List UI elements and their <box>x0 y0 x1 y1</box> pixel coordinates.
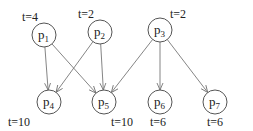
time-label: t=4 <box>22 10 38 24</box>
time-label: t=6 <box>207 115 223 129</box>
time-label: t=6 <box>150 115 166 129</box>
time-label: t=2 <box>78 7 94 21</box>
time-label: t=10 <box>111 115 133 129</box>
edge-p1-p5 <box>52 44 96 93</box>
node-p1: p1t=4 <box>22 10 56 47</box>
edge-p3-p5 <box>111 39 152 92</box>
time-label: t=2 <box>170 7 186 21</box>
edge-p3-p7 <box>167 40 207 93</box>
time-label: t=10 <box>8 115 30 129</box>
node-p5: p5t=10 <box>92 90 133 129</box>
nodes: p1t=4p2t=2p3t=2p4t=10p5t=10p6t=6p7t=6 <box>8 7 227 129</box>
node-p3: p3t=2 <box>148 7 186 42</box>
diagram-svg: p1t=4p2t=2p3t=2p4t=10p5t=10p6t=6p7t=6 <box>0 0 253 131</box>
edges <box>45 39 208 93</box>
edge-p1-p4 <box>45 47 48 90</box>
edge-p2-p5 <box>101 44 104 90</box>
node-p6: p6t=6 <box>148 90 172 129</box>
edge-p2-p4 <box>56 42 93 93</box>
dependency-diagram: p1t=4p2t=2p3t=2p4t=10p5t=10p6t=6p7t=6 <box>0 0 253 131</box>
node-p4: p4t=10 <box>8 90 61 129</box>
node-p7: p7t=6 <box>203 90 227 129</box>
node-p2: p2t=2 <box>78 7 112 44</box>
